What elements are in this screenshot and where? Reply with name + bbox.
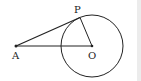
segment-ap (16, 18, 80, 47)
label-p: P (74, 4, 81, 15)
point-a (15, 45, 18, 48)
label-o: O (88, 50, 96, 61)
label-a: A (11, 50, 20, 61)
segment-op (80, 18, 92, 47)
geometry-diagram: A O P (0, 0, 141, 81)
point-o (91, 45, 94, 48)
